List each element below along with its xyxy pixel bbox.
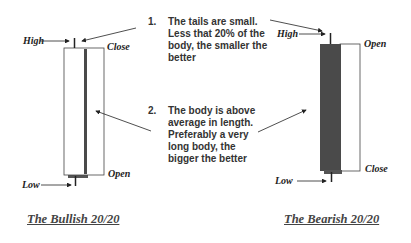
bearish-caption: The Bearish 20/20 xyxy=(284,212,379,227)
bullish-caption: The Bullish 20/20 xyxy=(27,212,119,227)
bearish-close-label: Close xyxy=(365,163,388,174)
bullish-low-label: Low xyxy=(22,179,40,190)
bullish-high-label: High xyxy=(23,35,44,46)
note-2-number: 2. xyxy=(148,105,156,117)
bearish-low-label: Low xyxy=(275,175,293,186)
bearish-high-label: High xyxy=(277,28,298,39)
note-1-text: The tails are small. Less that 20% of th… xyxy=(168,16,280,64)
bearish-candle xyxy=(320,33,360,182)
note-2-text: The body is above average in length. Pre… xyxy=(168,105,260,165)
bullish-close-label: Close xyxy=(107,41,130,52)
bearish-open-label: Open xyxy=(364,38,386,49)
bullish-open-label: Open xyxy=(108,168,130,179)
note-1-number: 1. xyxy=(148,16,156,28)
